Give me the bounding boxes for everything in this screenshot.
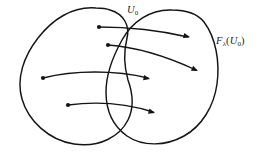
- domain-label-base: U: [127, 4, 135, 15]
- mapping-arrow-4-curve: [68, 103, 153, 112]
- arrow-head-1: [183, 33, 190, 38]
- domain-set-label: U0: [127, 5, 138, 17]
- source-dot-2: [106, 43, 110, 47]
- set-mapping-figure: U0 Fλ(U0): [0, 0, 275, 152]
- domain-label-subscript: 0: [135, 9, 138, 16]
- image-label-close-paren: ): [241, 35, 245, 46]
- mapping-arrow-2-curve: [108, 45, 196, 70]
- mapping-arrow-3-curve: [43, 72, 148, 78]
- source-dot-3: [41, 76, 45, 80]
- arrow-head-4: [148, 109, 155, 114]
- source-dot-4: [66, 103, 70, 107]
- arrow-head-3: [143, 75, 150, 80]
- mapping-arrow-1-curve: [99, 27, 188, 37]
- source-dot-1: [97, 25, 101, 29]
- diagram-canvas: [0, 0, 275, 152]
- image-label-function: F: [216, 35, 223, 46]
- right-set-outline: [106, 10, 218, 144]
- image-set-label: Fλ(U0): [216, 36, 245, 48]
